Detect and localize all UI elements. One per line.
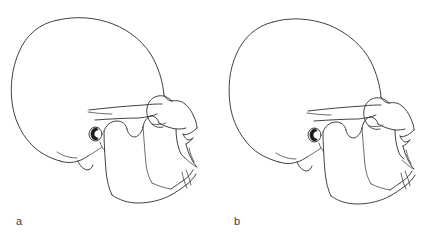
maxilla-outline	[378, 124, 405, 130]
mastoid-process	[297, 162, 312, 171]
gonial-angle-body	[112, 195, 171, 203]
cranial-vault-outline	[11, 20, 60, 161]
mandibular-ramus-anterior	[362, 128, 371, 184]
panel-label-a: a	[16, 216, 22, 227]
mandibular-body-superior	[371, 184, 390, 190]
maxillary-alveolar-process	[395, 130, 404, 159]
supraorbital-margin	[172, 101, 185, 104]
temporal-line	[307, 113, 331, 115]
nasal-bone	[185, 104, 197, 128]
external-auditory-meatus-icon	[91, 128, 98, 140]
occipital-nuchal-outline	[279, 157, 307, 164]
sigmoid-notch	[127, 127, 143, 137]
sigmoid-notch	[346, 128, 362, 138]
calvaria-superior-outline	[58, 18, 164, 95]
mastoid-process	[78, 161, 93, 170]
occipital-nuchal-outline	[60, 156, 88, 163]
skull-panel-a: a	[0, 0, 219, 242]
occipital-suture-line	[276, 153, 296, 159]
mandibular-condyle	[323, 122, 346, 132]
skull-figure: a	[0, 0, 437, 242]
coronoid-process	[143, 116, 159, 127]
mandibular-ramus-posterior	[104, 131, 112, 195]
mandibular-ramus-posterior	[323, 132, 331, 196]
zygomatic-arch-superior	[89, 104, 162, 110]
nasal-bone	[402, 106, 414, 130]
skull-panel-b: b	[218, 0, 437, 242]
mandibular-body-superior	[152, 183, 171, 189]
anterior-nasal-spine	[186, 138, 193, 144]
zygomatic-arch-superior	[308, 105, 381, 111]
panel-label-b: b	[234, 216, 240, 227]
external-auditory-meatus-icon	[310, 129, 317, 141]
nasal-aperture-lateral	[400, 130, 414, 137]
calvaria-superior-outline	[273, 19, 381, 97]
maxillary-teeth-edge	[402, 160, 413, 169]
maxillary-alveolar-process	[176, 129, 185, 158]
zygomatic-arch-inferior	[314, 115, 376, 121]
temporal-line	[88, 112, 112, 114]
mandibular-ramus-anterior	[143, 127, 152, 183]
chin-contour	[171, 174, 196, 195]
occipital-suture-line	[57, 152, 77, 158]
nasal-aperture-lateral	[183, 128, 197, 135]
maxillary-teeth-edge	[185, 158, 196, 167]
cranial-vault-outline	[229, 22, 279, 162]
mandibular-condyle	[104, 121, 127, 131]
cranial-base-line	[88, 147, 102, 156]
skull-drawing-b	[218, 0, 437, 242]
chin-contour	[390, 175, 415, 196]
supraorbital-margin	[389, 103, 402, 106]
anterior-nasal-spine	[403, 140, 410, 146]
cranial-base-line	[307, 148, 321, 157]
skull-drawing-a	[0, 0, 219, 242]
gonial-angle-body	[331, 196, 390, 204]
